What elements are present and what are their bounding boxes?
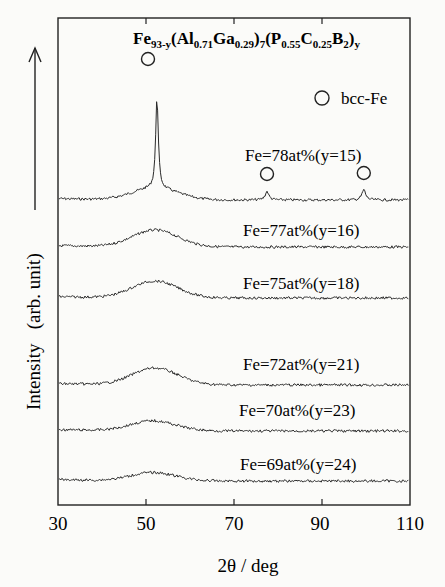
- x-tick-30: 30: [49, 513, 68, 534]
- x-tick-110: 110: [396, 513, 424, 534]
- curve-label-y18: Fe=75at%(y=18): [243, 274, 359, 293]
- chart-title: Fe93-y(Al0.71Ga0.29)7(P0.55C0.25B2)y: [133, 29, 361, 50]
- xrd-chart: Fe93-y(Al0.71Ga0.29)7(P0.55C0.25B2)y bcc…: [0, 0, 445, 587]
- y-axis-label: Intensity (arb. unit): [23, 253, 45, 410]
- curve-label-y16: Fe=77at%(y=16): [243, 221, 359, 240]
- x-tick-90: 90: [311, 513, 330, 534]
- x-tick-70: 70: [225, 513, 244, 534]
- legend-label: bcc-Fe: [341, 89, 387, 108]
- curve-label-y21: Fe=72at%(y=21): [243, 355, 359, 374]
- y-axis-arrow-icon: [29, 48, 41, 210]
- legend-circle-icon: [315, 91, 329, 105]
- bcc-fe-circle-icon: [357, 167, 370, 180]
- xrd-curve: [59, 420, 408, 433]
- curve-label-y23: Fe=70at%(y=23): [239, 401, 355, 420]
- curve-label-y15: Fe=78at%(y=15): [245, 146, 361, 165]
- x-axis-label: 2θ / deg: [218, 555, 279, 576]
- x-tick-50: 50: [137, 513, 156, 534]
- bcc-fe-circle-icon: [142, 53, 155, 66]
- bcc-fe-circle-icon: [261, 168, 274, 181]
- curve-label-y24: Fe=69at%(y=24): [240, 455, 356, 474]
